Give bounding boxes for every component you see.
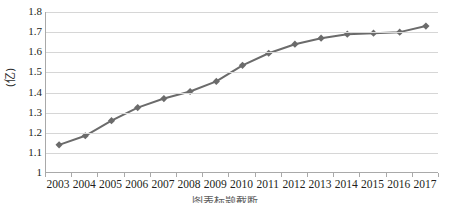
x-axis-tick-label: 2015	[361, 178, 384, 191]
y-axis-tick-label: 1.8	[28, 6, 42, 17]
data-point-marker	[134, 104, 141, 111]
x-axis-tick-label: 2016	[387, 178, 410, 191]
data-point-marker	[160, 95, 167, 102]
x-axis-tick-label: 2013	[309, 178, 332, 191]
x-axis-tick-labels: 2003200420052006200720082009201020112012…	[0, 178, 450, 193]
x-axis-tickmark	[202, 173, 203, 177]
x-axis-tick-label: 2011	[256, 178, 279, 191]
data-point-marker	[422, 22, 429, 29]
x-axis-tick-label: 2008	[178, 178, 201, 191]
x-axis-tickmark	[124, 173, 125, 177]
y-axis-tick-label: 1.7	[28, 26, 42, 37]
data-point-marker	[56, 141, 63, 148]
figure-caption-text: 图表标题截断	[0, 196, 450, 203]
x-axis-tick-label: 2007	[151, 178, 174, 191]
gridline	[46, 52, 438, 53]
gridline	[46, 93, 438, 94]
gridline	[46, 72, 438, 73]
y-axis-tick-labels: 1.81.71.61.51.41.31.21.11	[14, 0, 42, 183]
x-axis-tickmark	[281, 173, 282, 177]
plot-area	[45, 12, 438, 173]
x-axis-tick-label: 2004	[73, 178, 96, 191]
y-axis-tick-label: 1.2	[28, 127, 42, 138]
data-point-marker	[265, 50, 272, 57]
x-axis-tickmark	[438, 173, 439, 177]
y-axis-tick-label: 1	[37, 167, 43, 178]
gridline	[46, 153, 438, 154]
x-axis-tickmark	[255, 173, 256, 177]
x-axis-tick-label: 2010	[230, 178, 253, 191]
x-axis-tickmark	[150, 173, 151, 177]
x-axis-tick-label: 2005	[99, 178, 122, 191]
x-axis-tick-label: 2012	[282, 178, 305, 191]
x-axis-tickmark	[386, 173, 387, 177]
x-axis-tick-label: 2006	[125, 178, 148, 191]
series-line	[59, 26, 426, 145]
data-point-marker	[187, 88, 194, 95]
x-axis-tickmark	[412, 173, 413, 177]
y-axis-tick-label: 1.5	[28, 66, 42, 77]
y-axis-tick-label: 1.4	[28, 87, 42, 98]
y-axis-tick-label: 1.3	[28, 107, 42, 118]
gridline	[46, 12, 438, 13]
x-axis-tickmark	[97, 173, 98, 177]
x-axis-tick-label: 2017	[413, 178, 436, 191]
data-point-marker	[370, 30, 377, 37]
gridline	[46, 32, 438, 33]
x-axis-tickmark	[45, 173, 46, 177]
x-axis-tick-label: 2009	[204, 178, 227, 191]
x-axis-tickmark	[307, 173, 308, 177]
gridline	[46, 133, 438, 134]
line-chart-figure: (亿) 1.81.71.61.51.41.31.21.11 2003200420…	[0, 0, 450, 203]
figure-caption: 图表标题截断	[0, 196, 450, 203]
x-axis-tick-label: 2003	[47, 178, 70, 191]
x-axis-tickmark	[333, 173, 334, 177]
data-point-marker	[318, 35, 325, 42]
x-axis-tickmark	[71, 173, 72, 177]
x-axis-tickmark	[228, 173, 229, 177]
y-axis-tick-label: 1.6	[28, 46, 42, 57]
data-point-marker	[291, 41, 298, 48]
y-axis-tick-label: 1.1	[28, 147, 42, 158]
x-axis-tickmark	[176, 173, 177, 177]
gridline	[46, 113, 438, 114]
x-axis-tick-label: 2014	[335, 178, 358, 191]
x-axis-tickmark	[359, 173, 360, 177]
